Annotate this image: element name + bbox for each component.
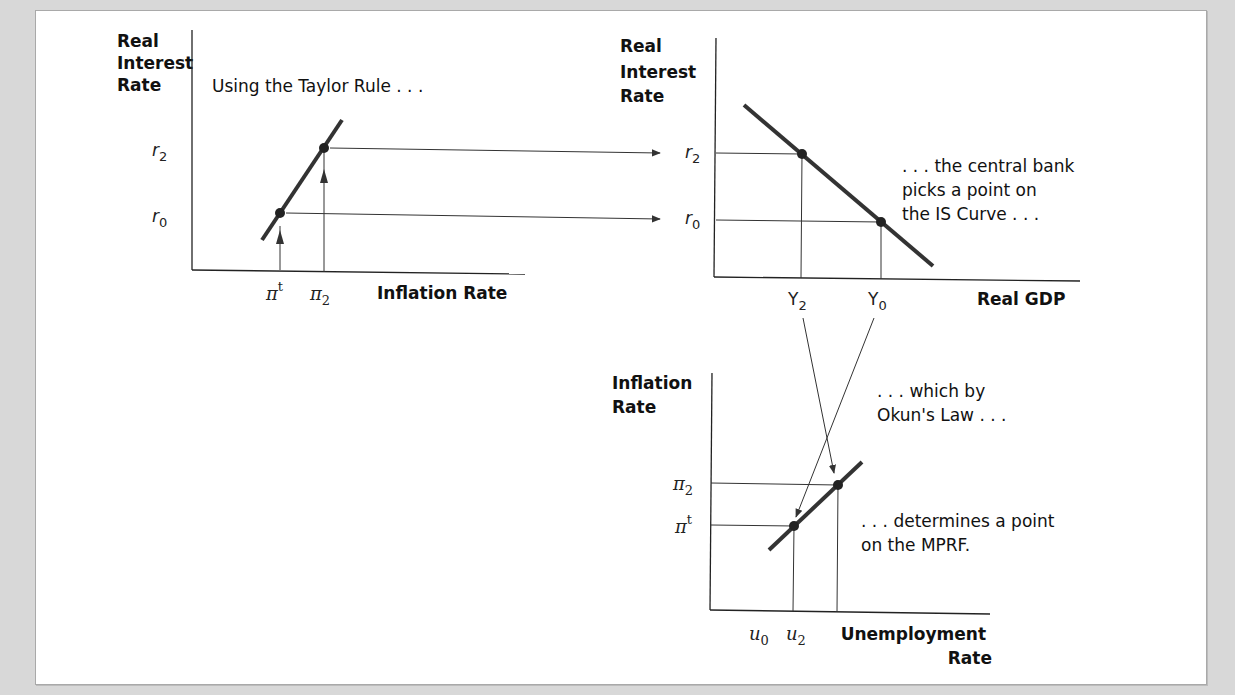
taylor-rule-chart: Real Interest Rate Using the Taylor Rule… (117, 30, 525, 308)
c2-tick-y2: Y2 (787, 289, 807, 313)
c3-y-axis-label: Inflation Rate (612, 373, 698, 417)
c2-tick-y0: Y0 (867, 289, 887, 313)
c3-point-pi2 (833, 480, 843, 490)
c1-tick-pi2: π2 (309, 283, 330, 308)
arrow-r2-to-is (330, 148, 660, 153)
c1-point-r2 (319, 143, 329, 153)
c2-point-y0 (876, 217, 886, 227)
c3-x-axis-label: Unemployment Rate (841, 624, 992, 668)
taylor-rule-line (262, 120, 342, 240)
c3-point-pit (789, 521, 799, 531)
c3-y-axis (710, 373, 712, 610)
c3-x-axis (710, 610, 990, 614)
c1-arrow-up-pi2 (320, 169, 328, 183)
c1-y-axis-label: Real Interest Rate (117, 31, 199, 95)
c2-y-axis (714, 38, 716, 277)
c3-tick-pi2: π2 (672, 473, 693, 498)
c2-annotation: . . . the central bank picks a point on … (902, 156, 1080, 224)
arrow-y2-to-pi2 (803, 318, 834, 473)
c1-annotation: Using the Taylor Rule . . . (212, 76, 423, 96)
mprf-line (769, 462, 862, 550)
c3-annotation-bottom: . . . determines a point on the MPRF. (861, 511, 1060, 555)
c3-tick-pit: πt (674, 512, 693, 537)
c1-tick-r2: r2 (152, 140, 167, 164)
c1-point-r0 (275, 208, 285, 218)
c2-x-axis-label: Real GDP (977, 289, 1065, 309)
mprf-chart: Inflation Rate π2 πt u0 u2 Unemployment … (612, 373, 1060, 668)
c1-tick-pit: πt (265, 279, 284, 304)
arrow-r0-to-is (286, 213, 660, 219)
c1-x-axis (192, 270, 525, 274)
c1-x-axis-label: Inflation Rate (377, 283, 507, 303)
c2-x-axis (714, 277, 1080, 281)
c2-point-y2 (797, 149, 807, 159)
c3-annotation-top: . . . which by Okun's Law . . . (877, 381, 1006, 425)
c2-y-axis-label: Real Interest Rate (620, 36, 702, 106)
is-curve-chart: Real Interest Rate r2 r0 Y2 Y0 Real GDP … (620, 36, 1080, 313)
c3-tick-u2: u2 (786, 623, 806, 648)
c1-arrow-up-pit (276, 230, 284, 244)
c3-tick-u0: u0 (749, 623, 769, 648)
c2-tick-r0: r0 (685, 208, 700, 232)
c1-tick-r0: r0 (152, 206, 167, 230)
c2-tick-r2: r2 (685, 142, 700, 166)
diagram-canvas: Real Interest Rate Using the Taylor Rule… (0, 0, 1235, 695)
